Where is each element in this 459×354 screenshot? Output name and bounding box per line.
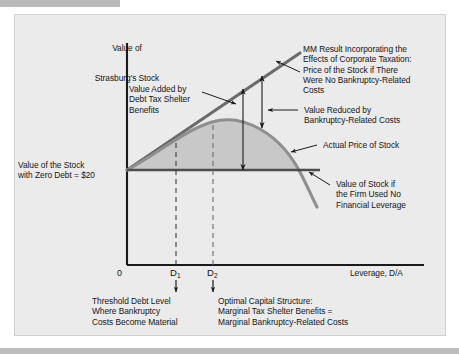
figure-page: Value of Strasburg's Stock MM Result Inc… bbox=[0, 0, 459, 354]
x-axis-title: Leverage, D/A bbox=[350, 268, 440, 278]
tick-label-d2-sub: 2 bbox=[214, 272, 218, 279]
annotation-value-reduced: Value Reduced by Bankruptcy-Related Cost… bbox=[304, 105, 454, 126]
y-axis-title-line1: Value of bbox=[72, 43, 182, 53]
tick-label-d1-base: D bbox=[170, 267, 177, 278]
y-axis-title-line2: Strasburg's Stock bbox=[72, 73, 182, 83]
annotation-mm-result: MM Result Incorporating the Effects of C… bbox=[303, 44, 453, 95]
no-leverage-leader bbox=[309, 172, 330, 185]
caption-d2: Optimal Capital Structure: Marginal Tax … bbox=[218, 296, 403, 327]
origin-label: 0 bbox=[117, 268, 122, 278]
tick-label-d1: D1 bbox=[170, 267, 181, 278]
annotation-value-added: Value Added by Debt Tax Shelter Benefits bbox=[129, 84, 234, 115]
actual-price-leader bbox=[291, 145, 317, 152]
tick-label-d2: D2 bbox=[207, 267, 218, 278]
annotation-no-leverage: Value of Stock if the Firm Used No Finan… bbox=[336, 179, 456, 210]
caption-d1: Threshold Debt Level Where Bankruptcy Co… bbox=[92, 296, 217, 327]
tick-label-d1-sub: 1 bbox=[177, 272, 181, 279]
annotation-actual-price: Actual Price of Stock bbox=[323, 140, 453, 150]
tick-label-d2-base: D bbox=[207, 267, 214, 278]
annotation-zero-debt: Value of the Stock with Zero Debt = $20 bbox=[18, 160, 128, 181]
